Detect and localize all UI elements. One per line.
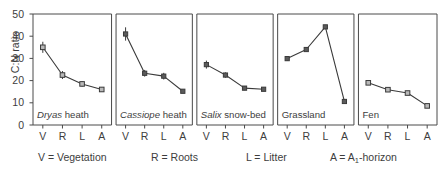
x-category-label-a: A	[420, 131, 434, 142]
x-category-label-a: A	[337, 131, 351, 142]
y-tick-label-30: 30	[2, 53, 24, 64]
data-point-marker	[99, 87, 104, 92]
x-category-label-r: R	[299, 131, 313, 142]
y-tick-label-40: 40	[2, 31, 24, 42]
x-category-label-l: L	[157, 131, 171, 142]
x-category-label-l: L	[75, 131, 89, 142]
data-point-marker	[80, 82, 85, 87]
series-line	[126, 34, 183, 91]
series-line	[206, 65, 263, 90]
series-line	[43, 47, 102, 89]
x-category-label-r: R	[381, 131, 395, 142]
data-point-marker	[181, 89, 185, 93]
data-point-marker	[342, 99, 346, 103]
data-point-marker	[143, 71, 147, 75]
x-category-label-a: A	[176, 131, 190, 142]
y-tick-label-50: 50	[2, 9, 24, 20]
data-point-marker	[405, 91, 410, 96]
panel-label-dryas-heath: Dryas heath	[37, 110, 89, 120]
panel-label-rest: snow-bed	[222, 109, 266, 120]
panel-label-cassiope-heath: Cassiope heath	[120, 110, 187, 120]
panel-label-rest: heath	[160, 109, 187, 120]
legend-item-r: R = Roots	[151, 152, 198, 163]
data-point-marker	[304, 47, 308, 51]
y-tick-label-0: 0	[2, 120, 24, 131]
data-point-marker	[242, 86, 246, 90]
x-category-label-l: L	[401, 131, 415, 142]
x-category-label-r: R	[138, 131, 152, 142]
legend-subscript: 1	[355, 156, 359, 165]
legend-item-l: L = Litter	[246, 152, 287, 163]
legend-item-v: V = Vegetation	[38, 152, 107, 163]
x-category-label-v: V	[361, 131, 375, 142]
data-point-marker	[285, 57, 289, 61]
data-point-marker	[223, 73, 227, 77]
x-category-label-a: A	[95, 131, 109, 142]
cn-ratio-chart-figure: C:N ratio 50403020100 VRLAVRLAVRLAVRLAVR…	[0, 0, 443, 172]
series-line	[287, 27, 344, 102]
x-category-label-v: V	[199, 131, 213, 142]
legend-item-a: A = A1-horizon	[330, 152, 397, 163]
data-point-marker	[262, 87, 266, 91]
y-tick-label-20: 20	[2, 75, 24, 86]
x-category-label-l: L	[238, 131, 252, 142]
x-category-label-v: V	[36, 131, 50, 142]
panel-label-genus: Cassiope	[120, 109, 160, 120]
x-category-label-r: R	[55, 131, 69, 142]
data-point-marker	[323, 25, 327, 29]
panel-label-fen: Fen	[362, 110, 379, 120]
data-point-marker	[386, 87, 391, 92]
series-line	[368, 83, 427, 106]
panel-label-grassland: Grassland	[282, 110, 326, 120]
panel-label-rest: heath	[62, 109, 89, 120]
x-category-label-v: V	[119, 131, 133, 142]
data-point-marker	[123, 32, 127, 36]
data-point-marker	[60, 73, 65, 78]
data-point-marker	[162, 74, 166, 78]
plot-area	[0, 0, 443, 172]
panel-label-salix-snow-bed: Salix snow-bed	[201, 110, 266, 120]
data-point-marker	[41, 45, 46, 50]
data-point-marker	[204, 63, 208, 67]
x-category-label-a: A	[257, 131, 271, 142]
data-point-marker	[425, 104, 430, 109]
x-category-label-r: R	[218, 131, 232, 142]
panel-label-genus: Salix	[201, 109, 222, 120]
data-point-marker	[366, 81, 371, 86]
y-tick-label-10: 10	[2, 97, 24, 108]
x-category-label-l: L	[318, 131, 332, 142]
x-category-label-v: V	[280, 131, 294, 142]
panel-label-genus: Dryas	[37, 109, 62, 120]
